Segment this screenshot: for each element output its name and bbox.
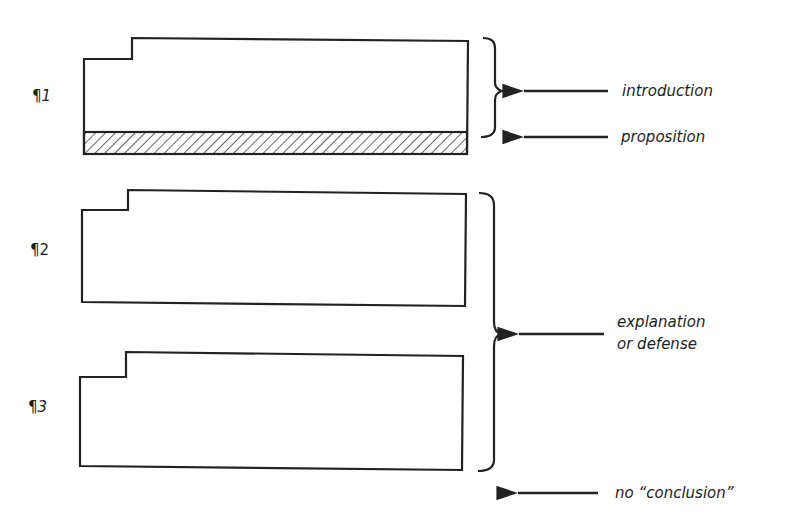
paragraph-1-marker: ¶1 <box>32 87 51 105</box>
paragraph-number: 1 <box>42 87 52 105</box>
pilcrow-icon: ¶ <box>28 398 38 416</box>
proposition-label: proposition <box>621 128 705 146</box>
paragraph-3-marker: ¶3 <box>28 398 47 416</box>
pilcrow-icon: ¶ <box>30 241 40 259</box>
paragraph-number: 3 <box>38 398 48 416</box>
pilcrow-icon: ¶ <box>32 87 42 105</box>
introduction-brace <box>481 38 502 137</box>
paragraph-2-box <box>82 190 466 306</box>
paragraph-3-box <box>80 352 463 470</box>
explanation-brace <box>478 193 501 471</box>
paragraph-1-box <box>84 38 468 154</box>
paragraph-2-marker: ¶2 <box>30 241 49 259</box>
explanation-label-line1: explanation <box>617 313 705 331</box>
proposition-band <box>84 132 467 154</box>
no-conclusion-label: no “conclusion” <box>615 484 734 502</box>
introduction-label: introduction <box>622 82 713 100</box>
essay-structure-diagram <box>0 0 792 529</box>
paragraph-number: 2 <box>40 241 50 259</box>
explanation-label-line2: or defense <box>617 335 697 353</box>
